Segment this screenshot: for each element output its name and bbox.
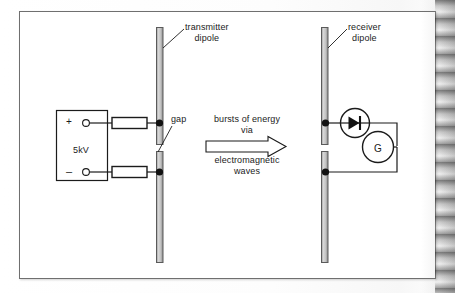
receiver-dipole-label: receiver dipole (348, 22, 381, 44)
scan-gutter-shadow (435, 0, 455, 293)
energy-arrow-label-bottom: electromagnetic waves (196, 155, 298, 177)
energy-arrow-label-top: bursts of energy via (199, 114, 295, 136)
positive-terminal-label: + (66, 116, 72, 127)
energy-label-line1: bursts of energy (199, 114, 295, 125)
transmitter-dipole-label-line2: dipole (185, 33, 229, 44)
power-supply-voltage-label: 5kV (58, 145, 104, 156)
energy-label-line3: electromagnetic (196, 155, 298, 166)
receiver-dipole-label-line2: dipole (348, 33, 381, 44)
gap-label: gap (171, 114, 186, 125)
transmitter-dipole-label: transmitter dipole (185, 22, 229, 44)
energy-label-line2: via (199, 125, 295, 136)
energy-label-line4: waves (196, 166, 298, 177)
galvanometer-label: G (371, 143, 385, 154)
figure-screenshot: transmitter dipole receiver dipole gap 5… (0, 0, 455, 293)
receiver-dipole-label-line1: receiver (348, 22, 381, 33)
transmitter-dipole-label-line1: transmitter (185, 22, 229, 33)
negative-terminal-label: – (66, 166, 72, 177)
